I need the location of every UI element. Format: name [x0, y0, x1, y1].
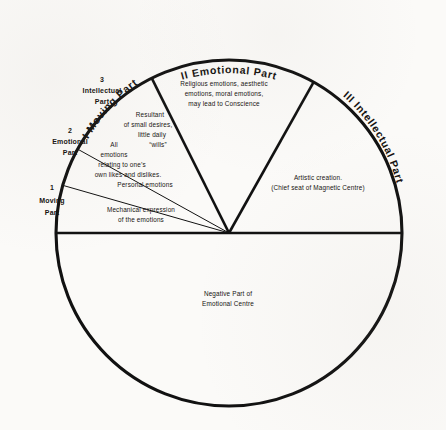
sector-index-3-number: 3: [100, 76, 104, 83]
mechanical-expression-line-2: of the emotions: [118, 216, 164, 223]
sector-label-resultant-of-small-desires: Resultant of small desires, little daily…: [124, 111, 173, 148]
sector-index-2-line2: Part: [63, 149, 78, 156]
sector-label-artistic-creation: Artistic creation. (Chief seat of Magnet…: [271, 174, 364, 192]
sector-label-personal-emotions: All emotions relating to one’s own likes…: [95, 141, 173, 188]
sector-index-1-number: 1: [50, 184, 54, 191]
mechanical-expression-line-1: Mechanical expression: [107, 206, 175, 214]
title-top: II Emotional Part: [180, 63, 279, 81]
sector-index-3-line1: Intellectual: [83, 87, 122, 94]
resultant-line-1: Resultant: [136, 111, 164, 118]
negative-part-line-1: Negative Part of: [204, 290, 252, 298]
resultant-line-2: of small desires,: [124, 121, 173, 128]
religious-emotions-line-3: may lead to Conscience: [188, 100, 260, 108]
personal-emotions-line-1: All: [110, 141, 118, 148]
title-left: I Moving Part: [79, 76, 139, 140]
resultant-line-3: little daily: [138, 131, 167, 139]
diagram-canvas: II Emotional Part I Moving Part III Inte…: [0, 0, 446, 430]
resultant-line-4: “wills”: [149, 141, 166, 148]
personal-emotions-line-3: relating to one’s: [98, 161, 146, 169]
sector-index-2-line1: Emotional: [52, 138, 88, 145]
emotional-centre-diagram: II Emotional Part I Moving Part III Inte…: [0, 0, 446, 430]
personal-emotions-line-5: Personal emotions: [117, 181, 172, 188]
sector-index-1-line2: Part: [45, 209, 60, 216]
religious-emotions-line-1: Religious emotions, aesthetic: [180, 80, 268, 88]
sector-label-religious-emotions: Religious emotions, aesthetic emotions, …: [180, 80, 268, 108]
personal-emotions-line-4: own likes and dislikes.: [95, 171, 162, 178]
religious-emotions-line-2: emotions, moral emotions,: [185, 90, 264, 97]
sector-index-2-number: 2: [68, 127, 72, 134]
personal-emotions-line-2: emotions: [100, 151, 127, 158]
sector-index-1-line1: Moving: [39, 197, 65, 205]
sector-label-negative-part: Negative Part of Emotional Centre: [202, 290, 254, 307]
negative-part-line-2: Emotional Centre: [202, 300, 254, 307]
artistic-creation-line-1: Artistic creation.: [294, 174, 342, 181]
sector-index-3-line2: Part: [95, 98, 110, 105]
artistic-creation-line-2: (Chief seat of Magnetic Centre): [271, 184, 364, 192]
